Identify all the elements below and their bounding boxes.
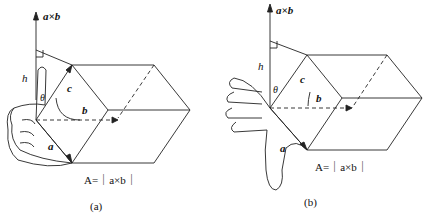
figure-b: a×b h θ c b a A=｜a×b｜ (b) xyxy=(212,0,424,218)
axis-label: a×b xyxy=(43,10,60,22)
vector-c-label: c xyxy=(67,82,72,94)
height-label: h xyxy=(258,60,264,72)
vector-b-label: b xyxy=(316,92,322,104)
angle-label: θ xyxy=(273,84,278,95)
parallelepiped-diagram-b xyxy=(212,0,424,218)
axis-label: a×b xyxy=(276,4,293,16)
vector-b-label: b xyxy=(82,104,88,116)
figure-caption: (b) xyxy=(304,196,317,208)
vector-a-label: a xyxy=(280,142,286,154)
area-formula: A=｜a×b｜ xyxy=(84,171,137,187)
vector-a-label: a xyxy=(48,140,54,152)
angle-label: θ xyxy=(40,92,45,103)
axis-arrowhead-icon xyxy=(34,12,39,20)
figure-a: a×b h θ c b a A=｜a×b｜ (a) xyxy=(0,0,212,218)
figure-caption: (a) xyxy=(90,200,102,212)
axis-arrowhead-icon xyxy=(268,4,273,12)
vector-c-label: c xyxy=(300,73,305,85)
height-label: h xyxy=(22,72,28,84)
area-formula: A=｜a×b｜ xyxy=(315,158,368,174)
